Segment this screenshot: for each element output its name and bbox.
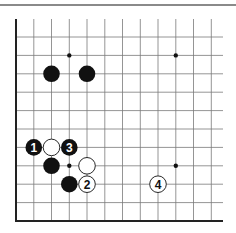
white-stone bbox=[43, 139, 60, 156]
star-point bbox=[174, 53, 178, 57]
go-board: 1324 bbox=[0, 0, 236, 233]
move-number-label: 4 bbox=[155, 178, 162, 192]
move-number-label: 1 bbox=[30, 141, 37, 155]
black-stone bbox=[79, 66, 96, 83]
star-point bbox=[174, 164, 178, 168]
star-point bbox=[67, 164, 71, 168]
move-number-label: 2 bbox=[84, 178, 91, 192]
black-stone bbox=[43, 158, 60, 175]
white-stone bbox=[79, 158, 96, 175]
black-stone bbox=[61, 176, 78, 193]
black-stone bbox=[43, 66, 60, 83]
star-point bbox=[67, 53, 71, 57]
move-number-label: 3 bbox=[66, 141, 73, 155]
